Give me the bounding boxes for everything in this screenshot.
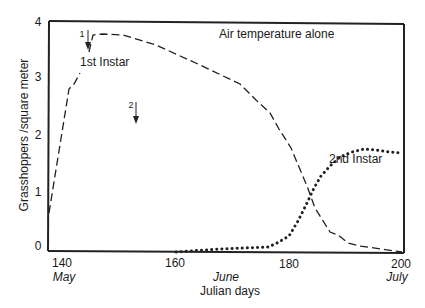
x-tick: 160: [165, 256, 185, 270]
series-1st-instar: [49, 73, 80, 213]
arrow-2-annotation: 2: [128, 100, 139, 124]
arrow-down-icon: [133, 116, 139, 124]
month-label-may: May: [53, 270, 77, 284]
x-tick: 200: [391, 257, 411, 271]
y-tick: 0: [35, 239, 42, 253]
y-axis-ticks: 4 3 2 1 0: [35, 15, 42, 253]
y-axis-label: Grasshoppers /square meter: [17, 59, 31, 212]
series-label-2nd-instar: 2nd Instar: [329, 152, 382, 166]
x-axis-ticks: 140 160 180 200: [52, 256, 411, 271]
y-tick: 4: [35, 15, 42, 29]
x-axis-label: Julian days: [200, 284, 260, 298]
y-tick: 2: [35, 128, 42, 142]
chart-title: Air temperature alone: [219, 27, 335, 41]
x-tick: 140: [52, 256, 72, 270]
x-tick: 180: [279, 257, 299, 271]
y-tick: 1: [35, 185, 42, 199]
series-label-1st-instar: 1st Instar: [80, 55, 129, 69]
chart: 4 3 2 1 0 Grasshoppers /square meter 140…: [0, 0, 425, 308]
arrow-1-annotation: 1: [79, 29, 91, 50]
month-label-july: July: [385, 270, 408, 284]
arrow-1-label: 1: [79, 29, 84, 39]
y-tick: 3: [35, 70, 42, 84]
series-1st-instar: [89, 34, 402, 252]
month-label-june: June: [212, 270, 239, 284]
arrow-2-label: 2: [128, 100, 133, 110]
